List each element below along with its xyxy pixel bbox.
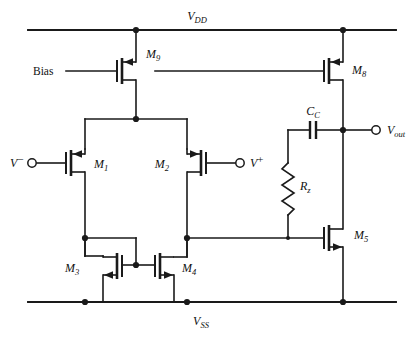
label-vdd: VDD [187, 9, 207, 25]
tail-node-bus [85, 116, 187, 149]
m4-nmos-arrow [164, 271, 173, 279]
transistor-m5 [324, 130, 343, 302]
label-m2: M2 [154, 157, 170, 173]
label-m5: M5 [353, 228, 368, 244]
output-net-group [340, 127, 372, 133]
label-m9: M9 [145, 47, 161, 63]
transistor-m8 [324, 30, 343, 130]
label-m3: M3 [64, 261, 79, 277]
label-vminus: V− [10, 153, 24, 170]
label-vout: Vout [387, 123, 406, 139]
rz-zigzag-body [282, 163, 294, 215]
terminal-vplus[interactable] [236, 159, 244, 167]
label-rz: Rz [299, 179, 311, 195]
transistor-m9 [117, 30, 136, 119]
terminal-vminus[interactable] [28, 159, 36, 167]
compensation-network [282, 121, 343, 240]
m9-pmos-arrow [124, 58, 133, 66]
node-dot-tail [133, 116, 139, 122]
transistor-m3 [85, 238, 136, 302]
label-m1: M1 [93, 157, 108, 173]
transistor-m4 [136, 238, 187, 302]
label-cc: CC [306, 104, 320, 120]
m8-pmos-arrow [331, 58, 340, 66]
transistor-m1 [37, 149, 85, 238]
vdd-rail-group [28, 27, 396, 33]
schematic-canvas: VDD VSS Bias V− V+ Vout M9 M8 M1 M2 M3 M… [0, 0, 420, 340]
label-bias: Bias [33, 65, 54, 77]
m2-pmos-arrow [190, 150, 199, 158]
node-dot-rz-m5gate [286, 236, 290, 240]
m3-nmos-arrow [104, 271, 113, 279]
label-vss: VSS [193, 314, 210, 330]
vss-rail-group [28, 299, 396, 305]
transistor-m2 [187, 149, 236, 238]
label-m4: M4 [181, 261, 197, 277]
m1-pmos-arrow [73, 150, 82, 158]
label-m8: M8 [351, 63, 367, 79]
circuit-schematic: VDD VSS Bias V− V+ Vout M9 M8 M1 M2 M3 M… [0, 0, 420, 340]
m5-nmos-arrow [333, 243, 342, 251]
terminal-vout[interactable] [372, 126, 380, 134]
label-vplus: V+ [250, 153, 264, 170]
